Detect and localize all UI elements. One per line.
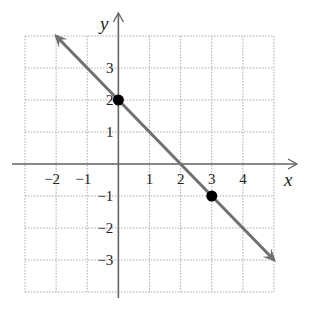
axes (12, 13, 297, 298)
x-tick-label: 4 (239, 171, 247, 187)
y-axis-label: y (98, 13, 109, 34)
coordinate-plane: −2−11234321−1−2−3 x y (0, 0, 310, 310)
data-point (206, 191, 217, 202)
x-tick-label: −2 (44, 171, 60, 187)
x-tick-label: 1 (146, 171, 154, 187)
y-tick-label: −2 (97, 220, 113, 236)
y-tick-label: 1 (106, 124, 114, 140)
x-axis-label: x (283, 169, 293, 190)
x-tick-label: 2 (177, 171, 185, 187)
x-tick-label: −1 (75, 171, 91, 187)
x-tick-label: 3 (208, 171, 216, 187)
line-segment (56, 36, 274, 260)
y-tick-label: −1 (97, 188, 113, 204)
data-point (113, 95, 124, 106)
y-tick-label: 3 (106, 60, 114, 76)
y-tick-label: −3 (97, 252, 113, 268)
